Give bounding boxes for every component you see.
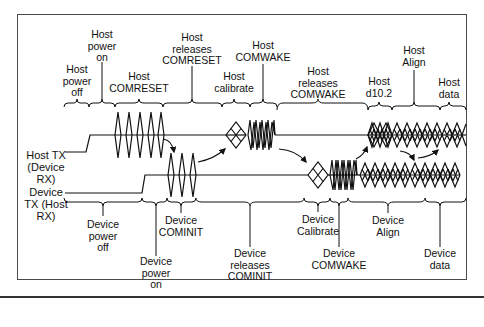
timing-diagram: Host TX (Device RX) Device TX (Host RX) … xyxy=(0,0,484,327)
waveform-canvas xyxy=(0,0,484,327)
device-event-braces xyxy=(64,198,466,256)
handshake-arrows xyxy=(163,139,438,162)
host-event-braces xyxy=(64,62,466,110)
device-tx-waveform xyxy=(65,153,460,197)
host-tx-waveform xyxy=(65,112,466,158)
